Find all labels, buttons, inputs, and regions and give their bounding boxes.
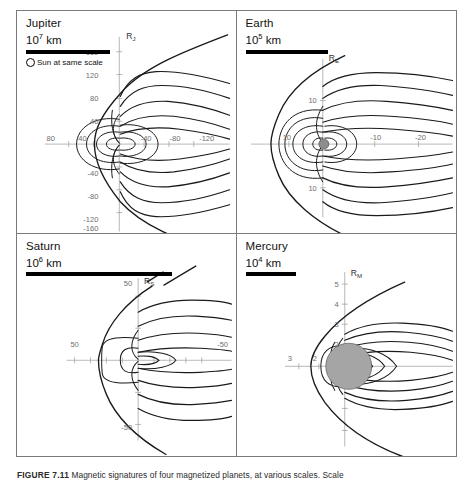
caption-text: Magnetic signatures of four magnetized p… bbox=[71, 470, 343, 480]
ticklabel-saturn-x-neg50: -50 bbox=[217, 340, 228, 349]
ticklabel-mercury-y-4: 4 bbox=[334, 300, 338, 309]
panel-earth: Earth 105 km bbox=[237, 11, 457, 234]
ticklabel-saturn-y-neg50: -50 bbox=[121, 423, 132, 432]
figure-container: Jupiter 107 km Sun at same scale bbox=[0, 0, 474, 495]
ticklabel-jupiter-y-neg40: -40 bbox=[88, 169, 99, 178]
ticklabel-earth-x-neg20: -20 bbox=[415, 133, 426, 142]
ticklabel-mercury-y-5: 5 bbox=[334, 280, 338, 289]
ticklabel-jupiter-y-120: 120 bbox=[86, 71, 99, 80]
ticklabel-earth-x-neg10: -10 bbox=[370, 133, 381, 142]
ticklabel-jupiter-x-40: 40 bbox=[78, 134, 86, 143]
ticklabel-mercury-y-3: 3 bbox=[334, 320, 338, 329]
ticklabel-mercury-x-2: 2 bbox=[312, 354, 316, 363]
ticklabel-jupiter-x-neg120: -120 bbox=[199, 134, 214, 143]
ticklabel-jupiter-y-neg120: -120 bbox=[83, 215, 98, 224]
ticklabel-jupiter-y-40: 40 bbox=[90, 117, 98, 126]
axis-name-mercury: RM bbox=[350, 268, 361, 279]
plot-mercury: 5 4 3 2 3 2 RM bbox=[237, 234, 457, 457]
axis-name-jupiter: RJ bbox=[126, 31, 135, 42]
ticklabel-mercury-y-2: 2 bbox=[334, 340, 338, 349]
ticklabel-saturn-y-50: 50 bbox=[124, 279, 132, 288]
plot-jupiter: 160 120 80 40 -40 -80 -120 80 40 -40 -80… bbox=[17, 11, 236, 233]
planet-disk-earth bbox=[318, 139, 328, 149]
ticklabel-earth-y-10-top: 10 bbox=[308, 96, 316, 105]
ticklabel-earth-x-10: 10 bbox=[282, 133, 290, 142]
ticklabel-earth-y-10-bottom: 10 bbox=[308, 184, 316, 193]
panel-mercury: Mercury 104 km bbox=[237, 234, 457, 457]
figure-caption: FIGURE 7.11 Magnetic signatures of four … bbox=[17, 470, 457, 481]
ticklabel-jupiter-x-80: 80 bbox=[47, 134, 55, 143]
axis-name-earth: RE bbox=[328, 53, 338, 64]
planet-disk-mercury bbox=[325, 343, 371, 389]
ticklabel-mercury-x-3: 3 bbox=[287, 354, 291, 363]
ticklabel-jupiter-y-neg80: -80 bbox=[88, 192, 99, 201]
caption-label: FIGURE 7.11 bbox=[17, 470, 69, 480]
panel-saturn: Saturn 106 km bbox=[17, 234, 237, 457]
panel-jupiter: Jupiter 107 km Sun at same scale bbox=[17, 11, 237, 234]
ticklabel-jupiter-y-80: 80 bbox=[90, 94, 98, 103]
ticklabel-jupiter-x-neg40: -40 bbox=[141, 134, 152, 143]
panel-grid: Jupiter 107 km Sun at same scale bbox=[16, 10, 457, 457]
ticklabel-saturn-x-50: 50 bbox=[70, 340, 78, 349]
ticklabel-jupiter-y-160: 160 bbox=[86, 48, 99, 57]
plot-earth: 10 10 10 -10 -20 RE bbox=[237, 11, 457, 233]
ticklabel-jupiter-x-neg80: -80 bbox=[169, 134, 180, 143]
plot-saturn: 50 -50 50 -50 RS bbox=[17, 234, 236, 457]
